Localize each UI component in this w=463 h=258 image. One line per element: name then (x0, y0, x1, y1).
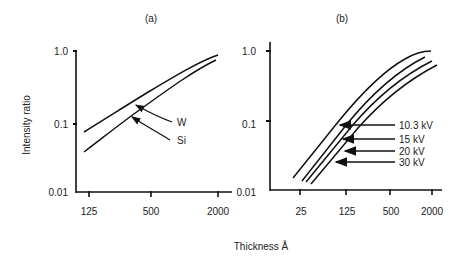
panel-a-ytick-0-01: 0.01 (49, 187, 69, 198)
panel-a-ytick-0-1: 0.1 (54, 119, 68, 130)
panel-a-xtick-2000: 2000 (207, 206, 230, 217)
panel-a-ytick-1: 1.0 (54, 46, 68, 57)
y-axis-label: Intensity ratio (21, 95, 32, 155)
panel-a-title: (a) (145, 13, 157, 24)
panel-b: (b) 1.0 0.1 0.01 25 125 500 2000 10.3 kV… (237, 13, 444, 217)
label-10-3kv: 10.3 kV (399, 120, 433, 131)
x-axis-label: Thickness Å (234, 240, 289, 252)
panel-b-ytick-0-1: 0.1 (242, 119, 256, 130)
panel-b-ytick-0-01: 0.01 (237, 187, 257, 198)
arrow-w (136, 105, 172, 122)
panel-a: (a) 1.0 0.1 0.01 125 500 2000 W Si (49, 13, 232, 217)
series-si-line (84, 60, 216, 152)
label-20kv: 20 kV (399, 146, 425, 157)
label-si: Si (177, 135, 186, 146)
panel-b-xtick-500: 500 (383, 206, 400, 217)
panel-b-title: (b) (336, 13, 348, 24)
label-w: W (177, 117, 187, 128)
series-w-line (84, 55, 218, 132)
panel-a-xtick-500: 500 (143, 206, 160, 217)
panel-b-ytick-1: 1.0 (242, 46, 256, 57)
label-15kv: 15 kV (399, 134, 425, 145)
label-30kv: 30 kV (399, 157, 425, 168)
arrow-si (132, 117, 170, 140)
panel-b-xtick-125: 125 (339, 206, 356, 217)
panel-a-xtick-125: 125 (81, 206, 98, 217)
panel-b-xtick-2000: 2000 (421, 206, 444, 217)
figure: (a) 1.0 0.1 0.01 125 500 2000 W Si (b) 1 (0, 0, 463, 258)
panel-b-xtick-25: 25 (295, 206, 307, 217)
